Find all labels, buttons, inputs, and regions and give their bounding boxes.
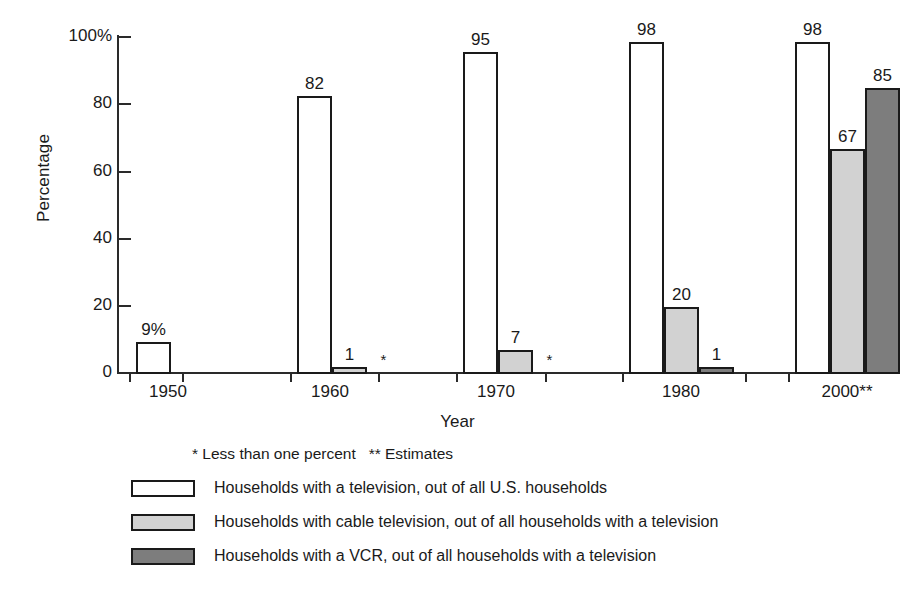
bar-1980-television bbox=[629, 42, 664, 374]
x-axis-title: Year bbox=[0, 412, 915, 432]
legend-label-cable: Households with cable television, out of… bbox=[214, 513, 718, 531]
bar-1960-cable bbox=[332, 367, 367, 374]
legend-item-television: Households with a television, out of all… bbox=[131, 479, 607, 497]
bar-value-2000-television: 98 bbox=[777, 21, 848, 38]
y-tick-mark-100 bbox=[119, 36, 131, 38]
legend-swatch-television-icon bbox=[131, 480, 195, 497]
bar-value-1980-television: 98 bbox=[611, 21, 682, 38]
y-tick-mark-40 bbox=[119, 238, 131, 240]
bar-1960-television bbox=[297, 96, 332, 374]
bar-value-1950-television: 9% bbox=[118, 321, 189, 338]
bar-2000-television bbox=[795, 42, 830, 374]
x-tick-mark-8 bbox=[788, 374, 790, 382]
bar-value-1970-cable: 7 bbox=[480, 329, 551, 346]
legend-swatch-cable-icon bbox=[131, 514, 195, 531]
x-tick-label-1950: 1950 bbox=[118, 383, 218, 401]
bar-value-1980-cable: 20 bbox=[646, 286, 717, 303]
y-tick-mark-20 bbox=[119, 305, 131, 307]
x-tick-label-1970: 1970 bbox=[446, 383, 546, 401]
y-tick-label-100: 100% bbox=[12, 27, 112, 44]
y-tick-mark-80 bbox=[119, 103, 131, 105]
legend-swatch-vcr-icon bbox=[131, 548, 195, 565]
x-tick-mark-6 bbox=[622, 374, 624, 382]
y-tick-label-40: 40 bbox=[12, 229, 112, 246]
bar-value-1970-television: 95 bbox=[445, 31, 516, 48]
bar-chart-figure: Percentage 100% 80 60 40 20 0 9% 82 1 * … bbox=[0, 0, 915, 595]
x-tick-mark-1 bbox=[182, 374, 184, 382]
y-tick-label-80: 80 bbox=[12, 94, 112, 111]
bar-2000-cable bbox=[830, 149, 865, 374]
bar-value-1970-vcr-asterisk: * bbox=[514, 352, 585, 367]
bar-1950-television bbox=[136, 342, 171, 374]
bar-value-1980-vcr: 1 bbox=[681, 346, 752, 363]
x-tick-mark-3 bbox=[378, 374, 380, 382]
x-tick-label-1960: 1960 bbox=[280, 383, 380, 401]
bar-2000-vcr bbox=[865, 88, 900, 374]
y-tick-mark-60 bbox=[119, 171, 131, 173]
bar-value-2000-vcr: 85 bbox=[847, 67, 915, 84]
x-tick-mark-4 bbox=[456, 374, 458, 382]
y-tick-label-60: 60 bbox=[12, 162, 112, 179]
bar-value-1960-television: 82 bbox=[279, 75, 350, 92]
x-tick-mark-0 bbox=[129, 374, 131, 382]
legend-item-vcr: Households with a VCR, out of all househ… bbox=[131, 547, 656, 565]
x-tick-label-2000: 2000** bbox=[797, 383, 897, 401]
legend-item-cable: Households with cable television, out of… bbox=[131, 513, 718, 531]
bar-value-1960-vcr-asterisk: * bbox=[348, 352, 419, 367]
legend-label-television: Households with a television, out of all… bbox=[214, 479, 607, 497]
x-tick-mark-7 bbox=[745, 374, 747, 382]
x-tick-label-1980: 1980 bbox=[631, 383, 731, 401]
x-tick-mark-2 bbox=[290, 374, 292, 382]
y-tick-label-0: 0 bbox=[12, 363, 112, 380]
x-tick-mark-5 bbox=[545, 374, 547, 382]
bar-1970-television bbox=[463, 52, 498, 374]
chart-footnote: * Less than one percent ** Estimates bbox=[192, 445, 453, 463]
bar-1980-vcr bbox=[699, 367, 734, 374]
bar-1980-cable bbox=[664, 307, 699, 374]
y-tick-label-20: 20 bbox=[12, 296, 112, 313]
legend-label-vcr: Households with a VCR, out of all househ… bbox=[214, 547, 656, 565]
